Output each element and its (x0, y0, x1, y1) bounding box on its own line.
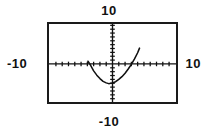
plot-viewing-window (47, 22, 178, 104)
plot-canvas (49, 24, 176, 102)
x-axis-min-label: -10 (7, 57, 27, 70)
graphing-calculator-screenshot: 10 -10 10 -10 (0, 0, 206, 130)
y-axis-max-label: 10 (0, 4, 206, 17)
x-axis-max-label: 10 (186, 57, 201, 70)
y-axis-min-label: -10 (0, 115, 206, 128)
